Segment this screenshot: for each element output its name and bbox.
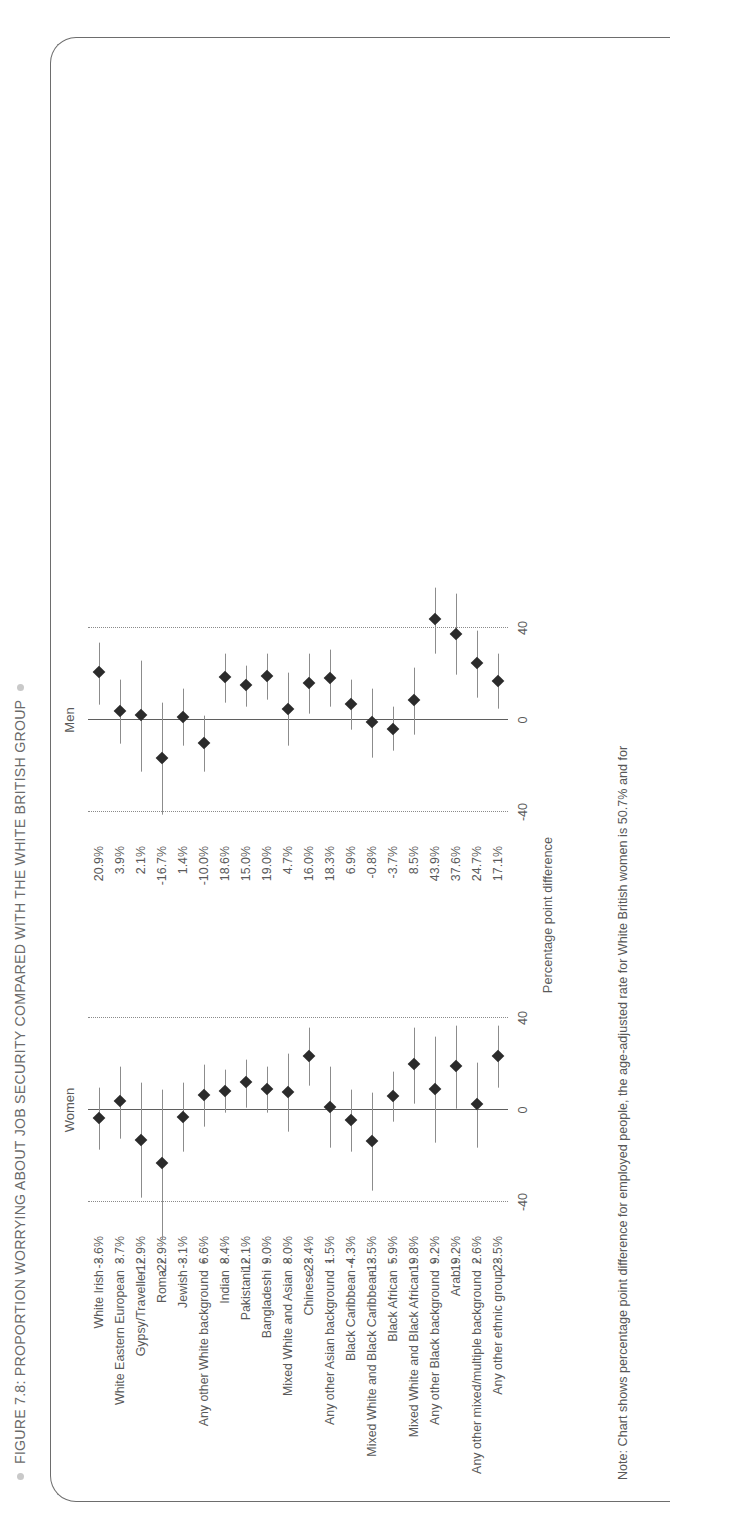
value-label: -3.7% xyxy=(386,846,400,954)
value-label: 8.4% xyxy=(218,1236,232,1344)
data-point xyxy=(323,672,336,685)
plot-men: -40040 xyxy=(88,582,508,858)
x-tick-label: -40 xyxy=(516,803,530,821)
gridline xyxy=(88,1017,508,1018)
value-label: -10.0% xyxy=(197,846,211,954)
data-point xyxy=(92,1112,105,1125)
figure-title-row: FIGURE 7.8: PROPORTION WORRYING ABOUT JO… xyxy=(12,684,28,1480)
bullet-dot-end-icon xyxy=(17,684,24,691)
value-label: -12.9% xyxy=(134,1236,148,1344)
data-point xyxy=(176,710,189,723)
data-point xyxy=(113,1095,126,1108)
data-point xyxy=(344,698,357,711)
value-label: 8.0% xyxy=(281,1236,295,1344)
value-label: 2.6% xyxy=(470,1236,484,1344)
data-point xyxy=(365,1135,378,1148)
value-label: 8.5% xyxy=(407,846,421,954)
value-label: 18.6% xyxy=(218,846,232,954)
value-label: 3.9% xyxy=(113,846,127,954)
value-label: -0.8% xyxy=(365,846,379,954)
x-tick-label: 0 xyxy=(516,716,530,723)
value-label: 19.2% xyxy=(449,1236,463,1344)
value-label: 17.1% xyxy=(491,846,505,954)
value-labels-men: 20.9%3.9%2.1%-16.7%1.4%-10.0%18.6%15.0%1… xyxy=(88,846,508,954)
data-point xyxy=(260,670,273,683)
data-point xyxy=(323,1100,336,1113)
value-label: 43.9% xyxy=(428,846,442,954)
data-point xyxy=(365,715,378,728)
x-tick-label: 40 xyxy=(516,1011,530,1025)
value-label: 12.1% xyxy=(239,1236,253,1344)
value-label: 15.0% xyxy=(239,846,253,954)
value-label: 5.9% xyxy=(386,1236,400,1344)
zero-reference-line xyxy=(88,719,508,720)
x-axis-label: Percentage point difference xyxy=(540,582,555,1248)
value-label: 2.1% xyxy=(134,846,148,954)
figure-page: FIGURE 7.8: PROPORTION WORRYING ABOUT JO… xyxy=(0,0,742,1538)
value-label: 23.4% xyxy=(302,1236,316,1344)
value-label: -13.5% xyxy=(365,1236,379,1344)
value-label: -22.9% xyxy=(155,1236,169,1344)
panel-men: Men -40040 xyxy=(88,582,508,858)
x-tick-label: 0 xyxy=(516,1106,530,1113)
data-point xyxy=(92,666,105,679)
data-point xyxy=(470,657,483,670)
x-tick-label: 40 xyxy=(516,621,530,635)
data-point xyxy=(134,1133,147,1146)
figure-note: Note: Chart shows percentage point diffe… xyxy=(615,50,632,1480)
value-label: 6.9% xyxy=(344,846,358,954)
data-point xyxy=(281,1085,294,1098)
value-label: 20.9% xyxy=(92,846,106,954)
data-point xyxy=(155,1156,168,1169)
data-point xyxy=(197,1088,210,1101)
value-label: 18.3% xyxy=(323,846,337,954)
value-label: -16.7% xyxy=(155,846,169,954)
data-point xyxy=(491,674,504,687)
gridline xyxy=(88,627,508,628)
value-label: 16.0% xyxy=(302,846,316,954)
data-point xyxy=(344,1114,357,1127)
rotated-page-wrapper: FIGURE 7.8: PROPORTION WORRYING ABOUT JO… xyxy=(0,0,742,1538)
value-label: 3.7% xyxy=(113,1236,127,1344)
data-point xyxy=(407,1058,420,1071)
data-point xyxy=(407,694,420,707)
value-labels-women: -3.6%3.7%-12.9%-22.9%-3.1%6.6%8.4%12.1%9… xyxy=(88,1236,508,1344)
chart-area: White IrishWhite Eastern EuropeanGypsy/T… xyxy=(88,58,558,1478)
data-point xyxy=(386,722,399,735)
value-label: 1.4% xyxy=(176,846,190,954)
value-label: 9.0% xyxy=(260,1236,274,1344)
value-label: 4.7% xyxy=(281,846,295,954)
data-point xyxy=(155,752,168,765)
value-label: 9.2% xyxy=(428,1236,442,1344)
data-point xyxy=(386,1090,399,1103)
data-point xyxy=(218,1084,231,1097)
data-point xyxy=(239,679,252,692)
panel-women: Women -40040 xyxy=(88,972,508,1248)
value-label: -3.6% xyxy=(92,1236,106,1344)
value-label: -4.3% xyxy=(344,1236,358,1344)
gridline xyxy=(88,1201,508,1202)
panel-title-women: Women xyxy=(62,972,77,1248)
data-point xyxy=(260,1083,273,1096)
data-point xyxy=(428,1082,441,1095)
data-point xyxy=(302,1050,315,1063)
panel-title-men: Men xyxy=(62,582,77,858)
data-point xyxy=(302,677,315,690)
page-title: FIGURE 7.8: PROPORTION WORRYING ABOUT JO… xyxy=(12,700,28,1464)
gridline xyxy=(88,811,508,812)
value-label: 37.6% xyxy=(449,846,463,954)
value-label: 23.5% xyxy=(491,1236,505,1344)
data-point xyxy=(197,737,210,750)
plot-women: -40040 xyxy=(88,972,508,1248)
value-label: 1.5% xyxy=(323,1236,337,1344)
data-point xyxy=(239,1076,252,1089)
data-point xyxy=(449,627,462,640)
value-label: 19.8% xyxy=(407,1236,421,1344)
data-point xyxy=(218,671,231,684)
x-tick-label: -40 xyxy=(516,1193,530,1211)
data-point xyxy=(281,703,294,716)
data-point xyxy=(176,1111,189,1124)
value-label: 19.0% xyxy=(260,846,274,954)
value-label: -3.1% xyxy=(176,1236,190,1344)
zero-reference-line xyxy=(88,1109,508,1110)
